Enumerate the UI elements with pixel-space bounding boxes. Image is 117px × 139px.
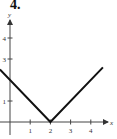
y-tick-label: 1 bbox=[3, 98, 7, 106]
chart: x y 1234134 bbox=[0, 0, 117, 139]
x-axis-label: x bbox=[109, 119, 114, 127]
series-line bbox=[0, 67, 103, 122]
x-tick-label: 2 bbox=[49, 127, 53, 135]
y-tick-label: 3 bbox=[3, 56, 7, 64]
x-tick-label: 3 bbox=[69, 127, 73, 135]
y-axis-label: y bbox=[7, 11, 12, 19]
x-tick-label: 4 bbox=[89, 127, 93, 135]
x-tick-label: 1 bbox=[28, 127, 32, 135]
y-tick-label: 4 bbox=[3, 35, 7, 43]
